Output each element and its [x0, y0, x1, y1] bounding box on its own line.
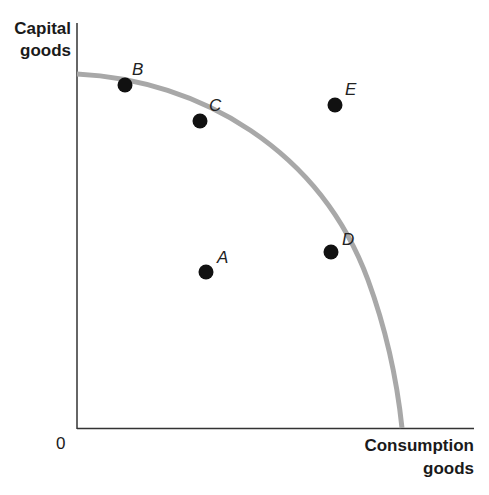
- x-axis-label: Consumption goods: [364, 434, 474, 480]
- point-d-label: D: [342, 230, 354, 249]
- point-b-label: B: [132, 60, 143, 79]
- origin-label: 0: [56, 434, 65, 454]
- point-e: E: [328, 80, 358, 113]
- point-c-label: C: [209, 96, 222, 115]
- point-e-label: E: [345, 80, 357, 99]
- ppf-chart: B C E D A: [0, 0, 489, 495]
- point-a-label: A: [216, 248, 228, 267]
- point-b: B: [118, 60, 144, 93]
- x-axis-label-line1: Consumption: [364, 434, 474, 457]
- point-d: D: [324, 230, 355, 260]
- x-axis-label-line2: goods: [364, 457, 474, 480]
- point-a: A: [199, 248, 229, 280]
- ppf-curve: [77, 74, 402, 428]
